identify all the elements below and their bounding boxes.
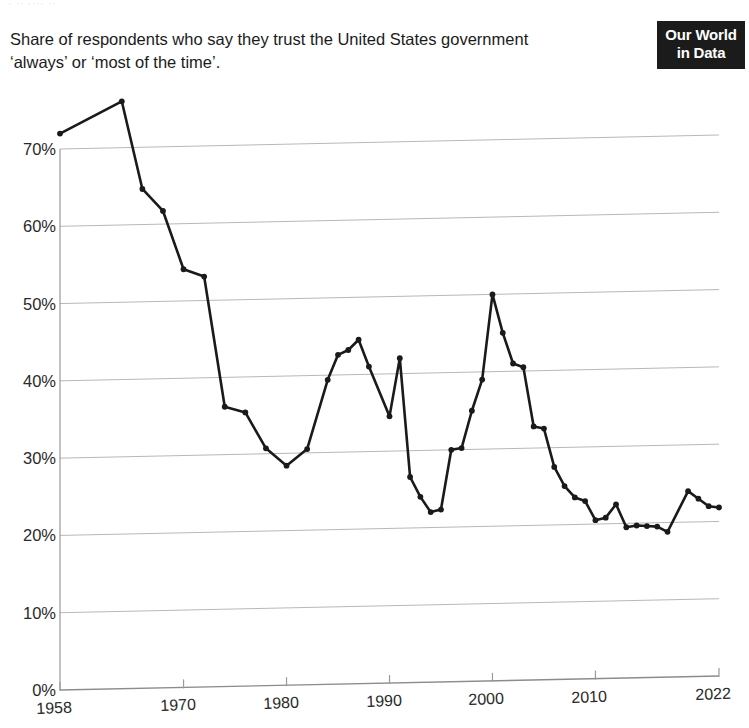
data-point [603, 515, 609, 521]
gridline [60, 212, 719, 226]
data-point [387, 413, 393, 419]
y-axis-labels: 0%10%20%30%40%50%60%70% [0, 0, 56, 728]
data-point [345, 347, 351, 353]
data-point [593, 517, 599, 523]
x-axis-tick-label: 1990 [366, 692, 402, 711]
y-axis-tick-label: 30% [4, 449, 56, 468]
data-point [304, 446, 310, 452]
y-axis-tick-label: 10% [4, 603, 56, 622]
data-point [500, 330, 506, 336]
data-point [634, 523, 640, 529]
data-points [57, 98, 722, 534]
x-axis-tick-label: 2000 [468, 689, 504, 708]
x-axis-tick-label: 2022 [695, 685, 731, 704]
data-point [696, 496, 702, 502]
gridline [60, 135, 719, 149]
data-point [356, 337, 362, 343]
gridline [60, 599, 719, 613]
data-point [665, 529, 671, 535]
data-point [654, 524, 660, 530]
data-point [716, 505, 722, 511]
data-point [685, 488, 691, 494]
data-point [520, 364, 526, 370]
y-axis-tick-label: 70% [4, 140, 56, 159]
data-point [562, 483, 568, 489]
gridline [60, 521, 719, 535]
data-point [263, 445, 269, 451]
data-point [438, 507, 444, 513]
data-point [57, 131, 63, 137]
data-point [572, 495, 578, 501]
data-point [284, 463, 290, 469]
data-point [139, 186, 145, 192]
data-point [201, 274, 207, 280]
data-point [706, 503, 712, 509]
data-point [582, 498, 588, 504]
data-point [459, 445, 465, 451]
data-point [119, 98, 125, 104]
data-point [325, 377, 331, 383]
data-point [366, 364, 372, 370]
data-point [448, 447, 454, 453]
y-axis-tick-label: 40% [4, 371, 56, 390]
data-point [181, 266, 187, 272]
data-point [531, 424, 537, 430]
data-point [397, 355, 403, 361]
x-axis-tick-label: 2010 [571, 687, 607, 706]
data-point [407, 474, 413, 480]
y-axis-tick-label: 60% [4, 217, 56, 236]
data-point [469, 408, 475, 414]
data-point [335, 352, 341, 358]
data-point [551, 464, 557, 470]
data-point [428, 509, 434, 515]
gridline [60, 444, 719, 458]
line-chart [0, 0, 749, 728]
data-point [510, 361, 516, 367]
data-point [479, 377, 485, 383]
data-point [541, 426, 547, 432]
data-point [490, 291, 496, 297]
data-line [60, 101, 719, 531]
data-point [417, 494, 423, 500]
y-axis-tick-label: 20% [4, 526, 56, 545]
x-axis-tick-label: 1980 [263, 694, 299, 713]
data-point [623, 524, 629, 530]
x-axis-tick-label: 1958 [36, 699, 72, 718]
y-axis-tick-label: 0% [4, 681, 56, 700]
gridline [60, 290, 719, 304]
x-axis-tick-label: 1970 [160, 696, 196, 715]
data-point [242, 410, 248, 416]
gridline [60, 367, 719, 381]
data-point [644, 523, 650, 529]
data-point [160, 208, 166, 214]
data-point [613, 501, 619, 507]
y-axis-tick-label: 50% [4, 294, 56, 313]
data-point [222, 404, 228, 410]
axis-lines [60, 149, 719, 690]
series-polyline [60, 101, 719, 531]
